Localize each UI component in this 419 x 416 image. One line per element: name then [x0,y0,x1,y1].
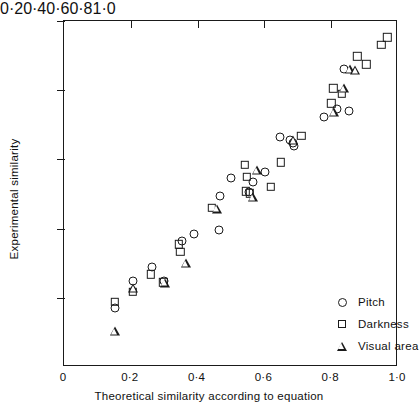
x-tick-label: 0·2 [121,371,138,383]
data-point-visual-area [350,66,360,75]
circle-marker-icon [338,298,347,307]
legend-item-pitch[interactable]: Pitch [332,291,419,313]
triangle-marker-icon [181,259,191,268]
square-marker-icon [176,248,184,256]
circle-marker-icon [215,191,224,200]
square-marker-icon [277,158,285,166]
data-point-visual-area [329,107,339,116]
data-point-pitch [320,113,329,122]
data-point-darkness [176,248,184,256]
data-point-pitch [227,174,236,183]
data-point-visual-area [288,136,298,145]
square-marker-icon [241,160,249,168]
data-point-pitch [275,132,284,141]
y-tick [57,159,65,160]
square-marker-icon [242,172,250,180]
triangle-marker-icon [252,165,262,174]
circle-marker-icon [344,106,353,115]
x-tick-label: 0·4 [188,371,205,383]
data-point-visual-area [160,278,170,287]
x-tick [331,20,332,28]
chart-legend: PitchDarknessVisual area [332,291,419,357]
square-marker-icon [146,270,154,278]
triangle-marker-icon [337,342,347,351]
data-point-darkness [111,298,119,306]
circle-marker-icon [320,113,329,122]
triangle-marker-icon [339,84,349,93]
triangle-marker-icon [248,193,258,202]
y-axis-title: Experimental similarity [8,99,20,299]
legend-symbol [332,342,352,351]
legend-item-darkness[interactable]: Darkness [332,313,419,335]
x-tick-label: 1·0 [388,371,405,383]
square-marker-icon [362,60,370,68]
circle-marker-icon [227,174,236,183]
circle-marker-icon [275,132,284,141]
square-marker-icon [329,84,337,92]
triangle-marker-icon [350,66,360,75]
data-point-darkness [267,183,275,191]
triangle-marker-icon [128,284,138,293]
legend-label: Darkness [358,318,409,330]
y-tick [57,90,65,91]
x-tick [131,20,132,28]
circle-marker-icon [189,229,198,238]
data-point-visual-area [248,193,258,202]
square-marker-icon [338,320,346,328]
data-point-visual-area [181,259,191,268]
triangle-marker-icon [212,204,222,213]
data-point-darkness [241,160,249,168]
square-marker-icon [297,132,305,140]
data-point-darkness [353,52,361,60]
plot-area: PitchDarknessVisual area [63,20,397,366]
data-point-darkness [297,132,305,140]
data-point-darkness [329,84,337,92]
data-point-darkness [146,270,154,278]
data-point-pitch [214,226,223,235]
data-point-visual-area [212,204,222,213]
data-point-pitch [344,106,353,115]
data-point-darkness [242,172,250,180]
x-axis-title: Theoretical similarity according to equa… [0,390,418,402]
triangle-marker-icon [160,278,170,287]
legend-label: Pitch [358,296,385,308]
data-point-darkness [362,60,370,68]
square-marker-icon [383,33,391,41]
data-point-visual-area [339,84,349,93]
triangle-marker-icon [329,107,339,116]
square-marker-icon [267,183,275,191]
circle-marker-icon [214,226,223,235]
square-marker-icon [111,298,119,306]
x-tick-label: 0 [60,371,67,383]
data-point-darkness [383,33,391,41]
data-point-darkness [377,40,385,48]
y-tick [57,229,65,230]
x-tick [264,20,265,28]
square-marker-icon [377,40,385,48]
data-point-visual-area [128,284,138,293]
legend-symbol [332,298,352,307]
triangle-marker-icon [288,136,298,145]
legend-symbol [332,320,352,328]
data-point-pitch [189,229,198,238]
x-tick-label: 0·8 [322,371,339,383]
square-marker-icon [353,52,361,60]
x-tick-label: 0·6 [255,371,272,383]
x-tick [198,20,199,28]
legend-item-visual-area[interactable]: Visual area [332,335,419,357]
legend-label: Visual area [358,340,419,352]
data-point-darkness [277,158,285,166]
y-tick [57,21,65,22]
y-tick [57,298,65,299]
data-point-pitch [215,191,224,200]
triangle-marker-icon [110,326,120,335]
data-point-visual-area [252,165,262,174]
data-point-visual-area [110,326,120,335]
